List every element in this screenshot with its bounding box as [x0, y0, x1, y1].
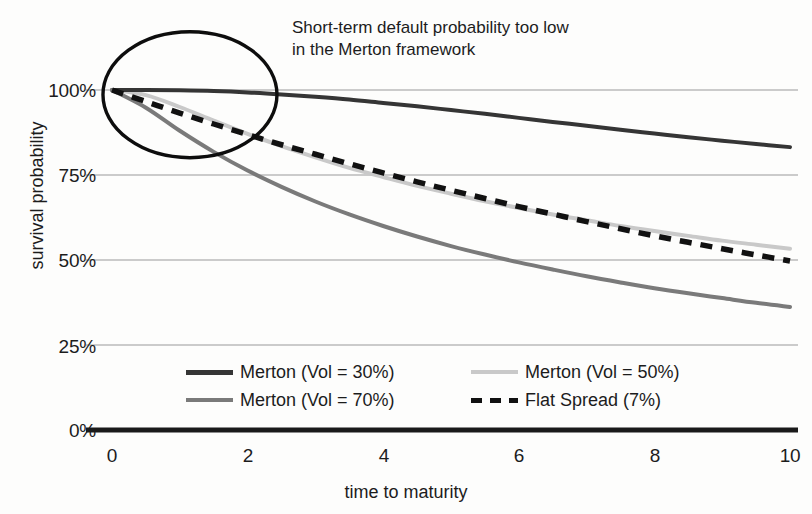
xtick-label-8: 8: [632, 445, 678, 467]
gridlines: [86, 90, 798, 345]
legend-label-merton-50: Merton (Vol = 50%): [525, 362, 680, 383]
ytick-label-0: 0%: [34, 420, 96, 442]
legend-swatch-merton-50: [471, 370, 518, 374]
xtick-label-6: 6: [496, 445, 542, 467]
xtick-label-4: 4: [361, 445, 407, 467]
y-axis-title: survival probability: [27, 86, 48, 306]
xtick-label-0: 0: [89, 445, 135, 467]
chart-figure: 100% 75% 50% 25% 0% survival probability…: [0, 0, 812, 514]
legend-swatch-merton-30: [186, 370, 233, 375]
legend-label-merton-30: Merton (Vol = 30%): [240, 362, 395, 383]
series-paths: [112, 90, 790, 307]
x-axis-title: time to maturity: [0, 482, 812, 503]
legend-swatch-merton-70: [186, 398, 233, 402]
plot-canvas: [0, 0, 812, 514]
legend-entry-merton-50: Merton (Vol = 50%): [471, 362, 751, 383]
legend-entry-merton-70: Merton (Vol = 70%): [186, 390, 471, 411]
annotation-line-2: in the Merton framework: [292, 39, 569, 61]
legend-swatch-flat-spread: [471, 398, 518, 403]
legend-entry-flat-spread: Flat Spread (7%): [471, 390, 751, 411]
annotation-text: Short-term default probability too low i…: [292, 17, 569, 61]
annotation-line-1: Short-term default probability too low: [292, 17, 569, 39]
series-line: [112, 90, 790, 249]
legend-entry-merton-30: Merton (Vol = 30%): [186, 362, 471, 383]
legend-label-merton-70: Merton (Vol = 70%): [240, 390, 395, 411]
legend-label-flat-spread: Flat Spread (7%): [525, 390, 661, 411]
xtick-label-2: 2: [225, 445, 271, 467]
xtick-label-10: 10: [767, 445, 812, 467]
ytick-label-25: 25%: [34, 336, 96, 358]
chart-legend: Merton (Vol = 30%) Merton (Vol = 50%) Me…: [186, 358, 666, 414]
